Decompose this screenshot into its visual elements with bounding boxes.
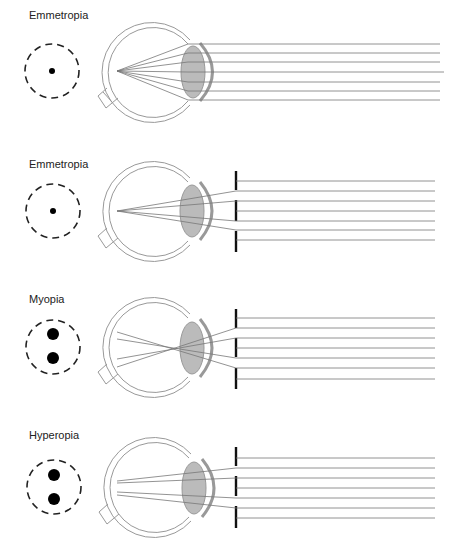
light-rays: [117, 44, 444, 100]
light-rays: [117, 318, 435, 379]
eye-diagram: [0, 140, 461, 277]
lens-icon: [182, 462, 206, 514]
eye-diagram: [0, 277, 461, 415]
eyeball-icon: [98, 23, 190, 123]
vision-spot-icon: [26, 184, 80, 238]
panel-hyperopia: Hyperopia: [0, 415, 461, 547]
panel-emmetropia-open: Emmetropia: [0, 0, 461, 140]
lens-icon: [180, 185, 204, 237]
eye-diagram: [0, 0, 461, 140]
panel-myopia: Myopia: [0, 277, 461, 415]
eyeball-icon: [98, 162, 190, 262]
light-rays: [117, 458, 435, 518]
light-rays: [117, 181, 435, 240]
eye-diagram: [0, 415, 461, 547]
panel-emmetropia-pinhole: Emmetropia: [0, 140, 461, 277]
eyeball-icon: [99, 438, 191, 538]
vision-spot-icon: [26, 320, 80, 374]
vision-spot-icon: [27, 460, 81, 514]
vision-spot-icon: [25, 44, 79, 98]
lens-icon: [180, 322, 204, 374]
